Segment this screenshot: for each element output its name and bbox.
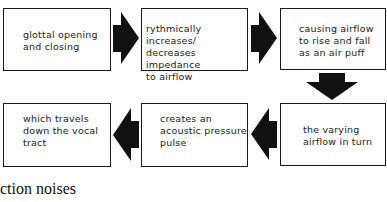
- box-text: causing airflow to rise and fall as an a…: [299, 23, 374, 59]
- arrow-right-icon: [251, 12, 277, 64]
- box-glottal-opening: glottal opening and closing: [3, 8, 111, 71]
- box-varying-airflow: the varying airflow in turn: [280, 103, 386, 166]
- box-impedance: rythmically increases/ decreases impedan…: [141, 8, 248, 71]
- arrow-down-icon: [306, 73, 358, 100]
- box-airflow-puff: causing airflow to rise and fall as an a…: [280, 8, 386, 70]
- box-vocal-tract: which travels down the vocal tract: [3, 103, 111, 167]
- arrow-right-icon: [113, 12, 139, 64]
- box-text: rythmically increases/ decreases impedan…: [146, 23, 247, 83]
- arrow-left-icon: [251, 108, 277, 160]
- box-text: glottal opening and closing: [23, 29, 98, 53]
- arrow-left-icon: [113, 108, 139, 161]
- box-text: which travels down the vocal tract: [23, 113, 98, 149]
- box-text: the varying airflow in turn: [303, 124, 372, 148]
- caption-text: ction noises: [0, 180, 76, 198]
- box-pressure-pulse: creates an acoustic pressure pulse: [141, 103, 248, 167]
- box-text: creates an acoustic pressure pulse: [160, 113, 247, 149]
